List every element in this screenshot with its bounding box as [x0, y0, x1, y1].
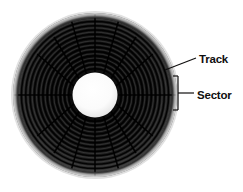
spindle-hub: [73, 73, 118, 118]
track-label: Track: [199, 54, 228, 66]
sector-label: Sector: [197, 90, 232, 102]
disk-diagram-figure: Track Sector: [0, 0, 243, 192]
